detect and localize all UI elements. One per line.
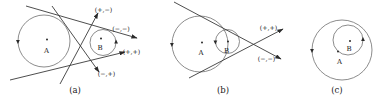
tangent-label-plus-plus: (+,+) [260,24,277,31]
center-label-b: B [224,47,229,55]
center-dot-a [46,39,48,41]
figure-canvas: A B (+,−) (−,−) (+,+) (−,+) (a) A B (+,+… [0,0,384,105]
center-dot-b [227,41,229,43]
tangent-label-plus-minus: (+,−) [95,6,112,13]
tangent-label-minus-minus: (−,−) [258,55,275,62]
caption-b: (b) [217,85,229,95]
center-label-a: A [336,58,343,66]
center-label-b: B [97,44,102,52]
center-dot-b [349,40,351,42]
tangent-label-minus-plus: (−,+) [98,70,115,77]
caption-c: (c) [331,85,342,95]
caption-a: (a) [69,85,81,95]
center-dot-b [100,38,102,40]
center-dot-a [337,51,339,53]
center-dot-a [201,42,203,44]
center-label-b: B [346,45,351,53]
tangent-label-minus-minus: (−,−) [112,25,129,32]
figure-background [0,0,384,105]
tangent-label-plus-plus: (+,+) [123,48,140,55]
center-label-a: A [43,47,50,55]
center-label-a: A [197,49,204,57]
